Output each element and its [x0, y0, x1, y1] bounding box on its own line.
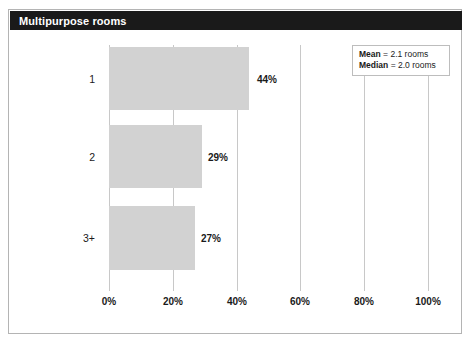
xtick-label-40: 40% [227, 296, 247, 307]
legend-median-value: = 2.0 rooms [391, 60, 436, 70]
xtick-label-20: 20% [163, 296, 183, 307]
legend-mean-value: = 2.1 rooms [383, 49, 428, 59]
plot-area: 1 44% 2 29% 3+ 27% 0% 20% 40% 60% 80% 10… [0, 0, 473, 343]
xtick-label-100: 100% [415, 296, 441, 307]
gridline-100 [428, 45, 429, 291]
bar-value-3: 27% [201, 233, 221, 244]
legend-mean-line: Mean = 2.1 rooms [359, 49, 444, 60]
bar-2 [109, 125, 202, 188]
xtick-label-0: 0% [102, 296, 116, 307]
category-label-3plus: 3+ [55, 232, 95, 244]
legend-mean-label: Mean [359, 49, 381, 59]
category-label-2: 2 [55, 151, 95, 163]
xtick-label-80: 80% [354, 296, 374, 307]
bar-3 [109, 206, 195, 270]
bar-value-1: 44% [257, 74, 277, 85]
chart-figure: Multipurpose rooms 1 44% 2 29% 3+ 27% 0%… [0, 0, 473, 343]
statistics-legend: Mean = 2.1 rooms Median = 2.0 rooms [352, 45, 450, 76]
bar-1 [109, 47, 249, 110]
gridline-80 [364, 45, 365, 291]
xtick-label-60: 60% [290, 296, 310, 307]
legend-median-label: Median [359, 60, 388, 70]
category-label-1: 1 [55, 73, 95, 85]
bar-value-2: 29% [208, 152, 228, 163]
legend-median-line: Median = 2.0 rooms [359, 60, 444, 71]
gridline-60 [300, 45, 301, 291]
